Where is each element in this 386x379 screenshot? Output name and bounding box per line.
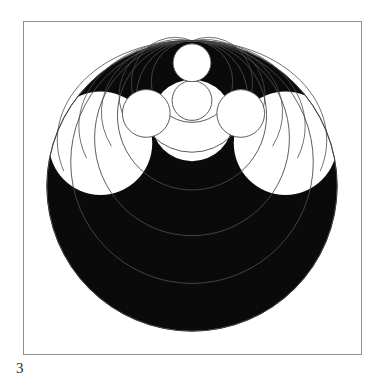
chain-circle-top [173, 44, 211, 82]
chain-circle-left [122, 90, 170, 138]
chain-circle-second [172, 81, 212, 121]
geometric-figure [24, 22, 361, 354]
figure-number-caption: 3 [16, 360, 24, 376]
chain-circle-right [217, 90, 265, 138]
figure-page: 3 [0, 0, 386, 379]
figure-border [23, 21, 362, 355]
